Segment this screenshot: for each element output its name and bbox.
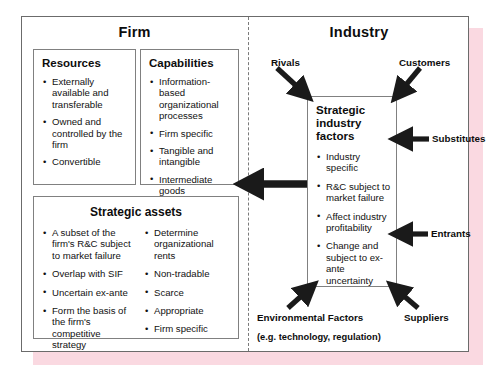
- customers-label: Customers: [399, 57, 450, 68]
- suppliers-label: Suppliers: [404, 312, 449, 323]
- strategic-industry-factors-card: Strategic industry factors Industry spec…: [307, 96, 397, 287]
- list-item: Tangible and intangible: [150, 145, 233, 168]
- substitutes-label: Substitutes: [432, 133, 485, 144]
- rivals-label: Rivals: [271, 57, 300, 68]
- industry-section-title: Industry: [249, 24, 469, 40]
- entrants-label: Entrants: [431, 228, 471, 239]
- list-item: Overlap with SIF: [43, 268, 132, 279]
- list-item: Uncertain ex-ante: [43, 287, 132, 298]
- list-item: A subset of the firm's R&C subject to ma…: [43, 227, 132, 261]
- environmental-factors-sublabel: (e.g. technology, regulation): [257, 332, 381, 342]
- list-item: Form the basis of the firm's competitive…: [43, 305, 132, 351]
- list-item: Information-based organizational process…: [150, 76, 233, 122]
- strategic-industry-factors-bullet-list: Industry specific R&C subject to market …: [317, 151, 392, 286]
- strategic-assets-left-column: A subset of the firm's R&C subject to ma…: [34, 227, 136, 358]
- strategic-industry-factors-heading: Strategic industry factors: [316, 104, 396, 143]
- list-item: Appropriate: [145, 305, 234, 316]
- resources-heading: Resources: [42, 57, 135, 69]
- list-item: Owned and controlled by the firm: [43, 116, 129, 150]
- diagram-canvas: Firm Industry Resources Externally avail…: [0, 0, 494, 375]
- capabilities-heading: Capabilities: [149, 57, 238, 69]
- strategic-assets-left-list: A subset of the firm's R&C subject to ma…: [43, 227, 132, 351]
- list-item: Non-tradable: [145, 268, 234, 279]
- resources-bullet-list: Externally available and transferable Ow…: [43, 76, 129, 168]
- list-item: Firm specific: [145, 323, 234, 334]
- list-item: Firm specific: [150, 128, 233, 139]
- firm-industry-divider: [248, 17, 249, 351]
- list-item: Determine organizational rents: [145, 227, 234, 261]
- strategic-assets-card: Strategic assets A subset of the firm's …: [33, 196, 239, 339]
- list-item: Intermediate goods: [150, 174, 233, 197]
- list-item: Convertible: [43, 156, 129, 167]
- list-item: Scarce: [145, 287, 234, 298]
- capabilities-card: Capabilities Information-based organizat…: [140, 49, 239, 185]
- environmental-factors-label: Environmental Factors: [257, 312, 363, 323]
- resources-card: Resources Externally available and trans…: [33, 49, 136, 185]
- strategic-assets-columns: A subset of the firm's R&C subject to ma…: [34, 227, 238, 358]
- list-item: R&C subject to market failure: [317, 181, 392, 204]
- list-item: Change and subject to ex-ante uncertaint…: [317, 240, 392, 286]
- list-item: Externally available and transferable: [43, 76, 129, 110]
- list-item: Affect industry profitability: [317, 211, 392, 234]
- list-item: Industry specific: [317, 151, 392, 174]
- strategic-assets-heading: Strategic assets: [34, 205, 238, 219]
- capabilities-bullet-list: Information-based organizational process…: [150, 76, 233, 197]
- strategic-assets-right-list: Determine organizational rents Non-trada…: [145, 227, 234, 335]
- strategic-assets-right-column: Determine organizational rents Non-trada…: [136, 227, 238, 358]
- firm-section-title: Firm: [21, 24, 248, 40]
